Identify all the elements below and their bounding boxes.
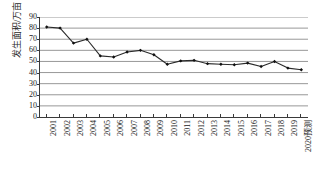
data-point-markers xyxy=(45,25,303,71)
y-axis-tick-label: 0 xyxy=(20,113,37,121)
x-axis-tick-labels: 2001200220032004200520062007200820092010… xyxy=(39,118,318,179)
x-axis-tick-label: 2010 xyxy=(170,120,179,176)
x-axis-tick-mark xyxy=(207,114,208,118)
y-axis-tick-mark xyxy=(37,95,40,96)
data-point-marker xyxy=(139,49,142,52)
x-axis-tick-label: 2015 xyxy=(237,120,246,176)
x-axis-tick-mark xyxy=(247,114,248,118)
x-axis-tick-label: 2014 xyxy=(223,120,232,176)
line-chart-svg xyxy=(40,17,308,117)
x-axis-tick-mark xyxy=(166,114,167,118)
x-axis-tick-label: 2008 xyxy=(143,120,152,176)
x-axis-tick-label: 2019 xyxy=(290,120,299,176)
x-axis-tick-mark xyxy=(126,114,127,118)
x-axis-tick-label: 2016 xyxy=(250,120,259,176)
data-point-marker xyxy=(246,61,249,64)
y-axis-tick-mark xyxy=(37,106,40,107)
data-point-marker xyxy=(112,55,115,58)
x-axis-tick-mark xyxy=(274,114,275,118)
x-axis-tick-label: 2018 xyxy=(277,120,286,176)
y-axis-tick-mark xyxy=(37,61,40,62)
data-point-marker xyxy=(206,62,209,65)
y-axis-tick-label: 90 xyxy=(20,13,37,21)
x-axis-tick-label: 2002 xyxy=(63,120,72,176)
y-axis-tick-mark xyxy=(37,84,40,85)
data-series-line xyxy=(47,27,302,70)
x-axis-tick-label: 2007 xyxy=(130,120,139,176)
x-axis-tick-mark xyxy=(260,114,261,118)
y-axis-tick-mark xyxy=(37,17,40,18)
y-axis-tick-mark xyxy=(37,28,40,29)
y-axis-tick-label: 40 xyxy=(20,69,37,77)
y-axis-tick-label: 20 xyxy=(20,91,37,99)
x-axis-tick-mark xyxy=(193,114,194,118)
data-point-marker xyxy=(233,63,236,66)
y-axis-tick-mark xyxy=(37,73,40,74)
y-axis-tick-label: 30 xyxy=(20,80,37,88)
x-axis-tick-label: 2012 xyxy=(197,120,206,176)
x-axis-tick-mark xyxy=(73,114,74,118)
x-axis-tick-mark xyxy=(46,114,47,118)
y-axis-tick-label: 50 xyxy=(20,57,37,65)
data-point-marker xyxy=(219,63,222,66)
x-axis-tick-mark xyxy=(140,114,141,118)
x-axis-tick-mark xyxy=(59,114,60,118)
x-axis-tick-label: 2005 xyxy=(103,120,112,176)
x-axis-tick-label: 2001 xyxy=(49,120,58,176)
x-axis-tick-label: 2020预测 xyxy=(304,120,313,176)
x-axis-tick-label: 2011 xyxy=(183,120,192,176)
plot-area xyxy=(39,17,308,118)
x-axis-tick-mark xyxy=(220,114,221,118)
data-point-marker xyxy=(259,65,262,68)
x-axis-tick-label: 2017 xyxy=(264,120,273,176)
data-point-marker xyxy=(300,68,303,71)
x-axis-tick-mark xyxy=(113,114,114,118)
x-axis-tick-mark xyxy=(86,114,87,118)
x-axis-tick-label: 2004 xyxy=(89,120,98,176)
x-axis-tick-label: 2003 xyxy=(76,120,85,176)
y-axis-tick-label: 10 xyxy=(20,102,37,110)
x-axis-tick-label: 2009 xyxy=(156,120,165,176)
y-axis-tick-labels: 0102030405060708090 xyxy=(20,12,37,120)
y-axis-tick-label: 80 xyxy=(20,24,37,32)
x-axis-tick-mark xyxy=(300,114,301,118)
data-point-marker xyxy=(125,50,128,53)
x-axis-tick-label: 2013 xyxy=(210,120,219,176)
x-axis-tick-label: 2006 xyxy=(116,120,125,176)
x-axis-tick-mark xyxy=(287,114,288,118)
gridlines xyxy=(40,17,308,106)
y-axis-tick-mark xyxy=(37,50,40,51)
x-axis-tick-mark xyxy=(153,114,154,118)
x-axis-tick-mark xyxy=(180,114,181,118)
data-point-marker xyxy=(179,59,182,62)
series-line xyxy=(47,27,302,70)
clipped-caption-fragment xyxy=(10,0,120,9)
y-axis-tick-mark xyxy=(37,39,40,40)
y-axis-tick-label: 70 xyxy=(20,35,37,43)
x-axis-tick-mark xyxy=(99,114,100,118)
x-axis-tick-mark xyxy=(233,114,234,118)
chart-figure: 发生面积/万亩 0102030405060708090 200120022003… xyxy=(0,0,318,179)
y-axis-tick-label: 60 xyxy=(20,46,37,54)
